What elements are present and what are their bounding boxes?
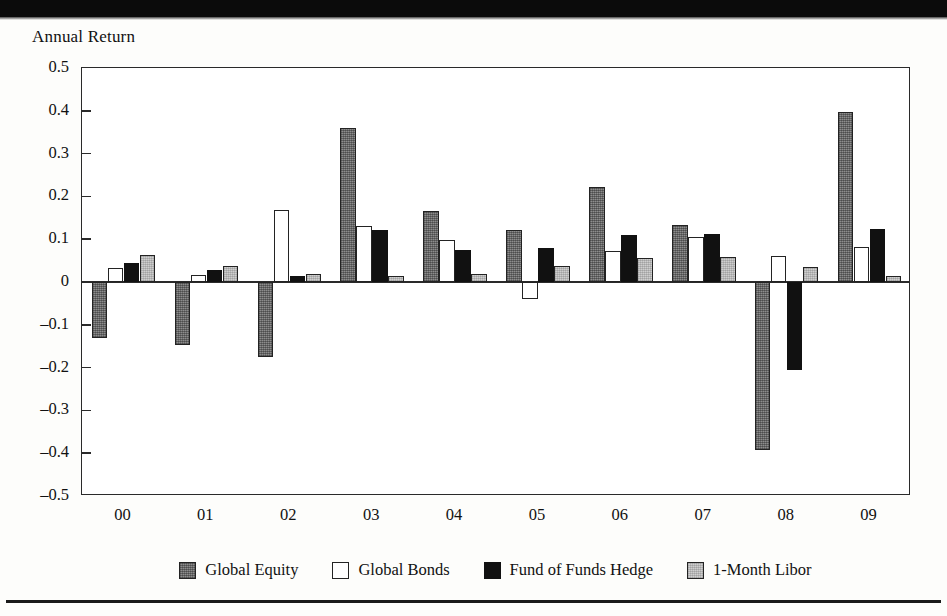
y-axis-tick-label: –0.2 — [0, 357, 69, 377]
x-axis-tick-label-09: 09 — [860, 505, 877, 525]
bar-1-month-libor-02 — [306, 274, 322, 282]
bar-global-bonds-04 — [439, 240, 455, 282]
y-axis-title: Annual Return — [32, 27, 135, 47]
legend-swatch-icon — [179, 562, 196, 579]
bar-global-equity-07 — [672, 225, 688, 282]
bar-global-equity-02 — [258, 282, 274, 357]
x-axis-tick-label-03: 03 — [363, 505, 380, 525]
legend-swatch-icon — [484, 562, 501, 579]
bar-fund-of-funds-hedge-09 — [870, 229, 886, 282]
bar-fund-of-funds-hedge-07 — [704, 234, 720, 282]
bar-fund-of-funds-hedge-01 — [207, 270, 223, 282]
page-top-rule — [0, 0, 947, 17]
legend-item-1-month-libor[interactable]: 1-Month Libor — [687, 560, 812, 580]
bar-global-bonds-08 — [771, 256, 787, 282]
y-axis-tick — [82, 153, 91, 155]
bar-global-equity-05 — [506, 230, 522, 282]
y-axis-tick — [82, 367, 91, 369]
legend-item-global-bonds[interactable]: Global Bonds — [332, 560, 449, 580]
y-axis-tick — [82, 110, 91, 112]
bar-global-bonds-09 — [854, 247, 870, 282]
page-top-rule-shadow — [0, 17, 947, 20]
chart-page: Annual Return 0.50.40.30.20.10–0.1–0.2–0… — [0, 0, 947, 616]
bar-1-month-libor-00 — [140, 255, 156, 282]
bar-fund-of-funds-hedge-02 — [290, 276, 306, 282]
bar-1-month-libor-05 — [554, 266, 570, 282]
y-axis-tick — [82, 196, 91, 198]
legend-item-fund-of-funds-hedge[interactable]: Fund of Funds Hedge — [484, 560, 653, 580]
legend-label: Fund of Funds Hedge — [510, 560, 653, 580]
chart-legend: Global EquityGlobal BondsFund of Funds H… — [81, 553, 910, 587]
y-axis-tick-label: 0.3 — [0, 143, 69, 163]
y-axis-tick-label: –0.4 — [0, 442, 69, 462]
plot-frame — [81, 67, 910, 495]
y-axis-tick — [82, 410, 91, 412]
bar-global-bonds-05 — [522, 282, 538, 299]
bar-global-bonds-07 — [688, 237, 704, 282]
legend-swatch-icon — [687, 562, 704, 579]
bar-1-month-libor-07 — [720, 257, 736, 282]
bar-global-bonds-01 — [191, 275, 207, 282]
bar-fund-of-funds-hedge-05 — [538, 248, 554, 282]
legend-swatch-icon — [332, 562, 349, 579]
bar-global-equity-00 — [92, 282, 108, 338]
bar-1-month-libor-08 — [803, 267, 819, 282]
x-axis-tick-label-01: 01 — [197, 505, 214, 525]
y-axis-tick — [82, 452, 91, 454]
plot-area — [82, 68, 909, 494]
y-axis-tick — [82, 238, 91, 240]
x-axis-tick-label-02: 02 — [280, 505, 297, 525]
bar-fund-of-funds-hedge-00 — [124, 263, 140, 282]
bar-global-equity-04 — [423, 211, 439, 282]
bar-fund-of-funds-hedge-06 — [621, 235, 637, 282]
bar-fund-of-funds-hedge-03 — [372, 230, 388, 282]
bar-1-month-libor-03 — [388, 276, 404, 282]
bar-1-month-libor-06 — [637, 258, 653, 282]
y-axis-tick-label: 0.1 — [0, 228, 69, 248]
bar-global-equity-01 — [175, 282, 191, 345]
y-axis-tick-label: –0.5 — [0, 485, 69, 505]
y-axis-tick-label: 0 — [0, 271, 69, 291]
bar-fund-of-funds-hedge-04 — [455, 250, 471, 282]
page-bottom-rule — [6, 600, 941, 603]
y-axis-tick-label: 0.5 — [0, 57, 69, 77]
y-axis-tick-label: 0.4 — [0, 100, 69, 120]
x-axis-tick-label-05: 05 — [529, 505, 546, 525]
y-axis-tick-label: 0.2 — [0, 185, 69, 205]
x-axis-tick-label-00: 00 — [114, 505, 131, 525]
x-axis-tick-label-07: 07 — [695, 505, 712, 525]
bar-1-month-libor-04 — [471, 274, 487, 282]
bar-global-bonds-06 — [605, 251, 621, 282]
bar-fund-of-funds-hedge-08 — [787, 282, 803, 370]
y-axis-tick-label: –0.3 — [0, 399, 69, 419]
y-axis-tick-label: –0.1 — [0, 314, 69, 334]
y-axis-tick — [82, 324, 91, 326]
bar-global-equity-06 — [589, 187, 605, 282]
bar-1-month-libor-01 — [223, 266, 239, 282]
x-axis-tick-label-08: 08 — [777, 505, 794, 525]
legend-label: Global Bonds — [358, 560, 449, 580]
legend-item-global-equity[interactable]: Global Equity — [179, 560, 298, 580]
legend-label: 1-Month Libor — [713, 560, 812, 580]
bar-global-equity-09 — [838, 112, 854, 282]
legend-label: Global Equity — [205, 560, 298, 580]
x-axis-tick-label-06: 06 — [612, 505, 629, 525]
bar-global-bonds-00 — [108, 268, 124, 282]
bar-global-bonds-03 — [356, 226, 372, 282]
x-axis-tick-label-04: 04 — [446, 505, 463, 525]
bar-1-month-libor-09 — [886, 276, 902, 282]
bar-global-equity-08 — [755, 282, 771, 450]
bar-global-equity-03 — [340, 128, 356, 282]
bar-global-bonds-02 — [274, 210, 290, 282]
